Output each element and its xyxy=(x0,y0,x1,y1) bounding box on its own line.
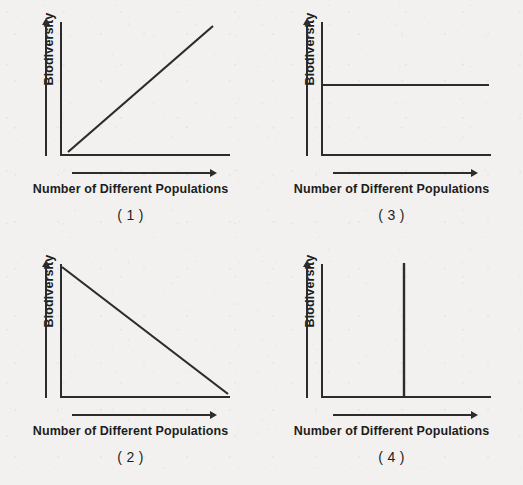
multiple-choice-graph-figure: Biodiversity Number of Different Populat… xyxy=(0,0,523,485)
y-axis-direction-arrow-icon xyxy=(45,266,47,398)
y-axis-direction-arrow-icon xyxy=(45,24,47,156)
y-axis-direction-arrow-icon xyxy=(306,266,308,398)
x-axis-direction-arrow-icon xyxy=(72,414,210,416)
panel-choice-number: ( 3 ) xyxy=(261,207,522,223)
graph-panel-2[interactable]: Biodiversity Number of Different Populat… xyxy=(0,242,261,484)
x-axis-label: Number of Different Populations xyxy=(261,182,522,196)
plot-area xyxy=(321,264,491,398)
graph-panel-3[interactable]: Biodiversity Number of Different Populat… xyxy=(261,0,522,242)
panel-choice-number: ( 4 ) xyxy=(261,449,522,465)
plot-area xyxy=(60,264,230,398)
graph-panel-1[interactable]: Biodiversity Number of Different Populat… xyxy=(0,0,261,242)
x-axis-label: Number of Different Populations xyxy=(261,424,522,438)
plot-area xyxy=(60,22,230,156)
x-axis-direction-arrow-icon xyxy=(72,172,210,174)
x-axis-direction-arrow-icon xyxy=(333,414,471,416)
panel-choice-number: ( 2 ) xyxy=(0,449,261,465)
plot-area xyxy=(321,22,491,156)
data-line-decreasing xyxy=(62,267,228,394)
graph-panel-4[interactable]: Biodiversity Number of Different Populat… xyxy=(261,242,522,484)
y-axis-direction-arrow-icon xyxy=(306,24,308,156)
x-axis-direction-arrow-icon xyxy=(333,172,471,174)
x-axis-label: Number of Different Populations xyxy=(0,182,261,196)
panel-choice-number: ( 1 ) xyxy=(0,207,261,223)
data-line-increasing xyxy=(68,26,213,152)
x-axis-label: Number of Different Populations xyxy=(0,424,261,438)
